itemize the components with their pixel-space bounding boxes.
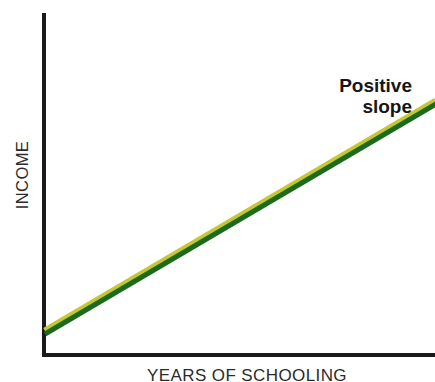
- y-axis-label: INCOME: [13, 141, 32, 209]
- positive-slope-annotation: Positive slope: [339, 76, 412, 117]
- positive-slope-annotation-line1: Positive: [339, 76, 412, 97]
- series-positive-slope-line: [45, 104, 435, 334]
- chart-plot-area: [0, 0, 435, 382]
- x-axis-label: YEARS OF SCHOOLING: [147, 366, 347, 382]
- chart-container: INCOME YEARS OF SCHOOLING Positive slope: [0, 0, 435, 382]
- series-positive-slope-highlight: [45, 101, 435, 331]
- positive-slope-annotation-line2: slope: [339, 97, 412, 118]
